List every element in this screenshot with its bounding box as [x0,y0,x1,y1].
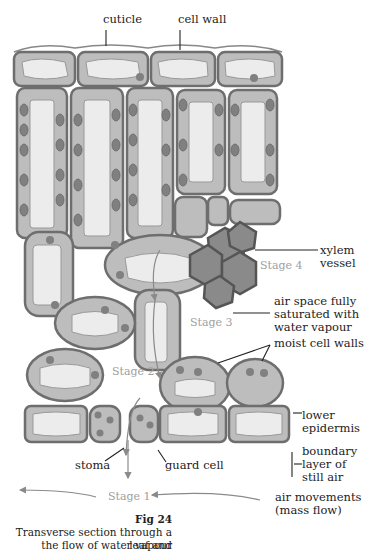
label-air-space-3: water vapour [274,321,352,334]
label-epidermis: epidermis [302,422,360,435]
label-cuticle: cuticle [103,13,142,26]
label-mass-flow: (mass flow) [275,504,342,517]
label-guard-cell: guard cell [165,459,224,472]
figure-number: Fig 24 [135,513,172,526]
caption-line-2: the flow of water vapour [41,539,172,552]
label-still-air: still air [302,471,343,484]
label-vessel: vessel [320,257,356,270]
stage-2: Stage 2 [112,365,155,378]
label-cell-wall: cell wall [178,13,226,26]
stage-4: Stage 4 [260,259,303,272]
label-moist-cell-walls: moist cell walls [274,337,364,350]
stage-3: Stage 3 [190,316,233,329]
stage-1: Stage 1 [108,490,151,503]
label-stoma: stoma [75,459,110,472]
